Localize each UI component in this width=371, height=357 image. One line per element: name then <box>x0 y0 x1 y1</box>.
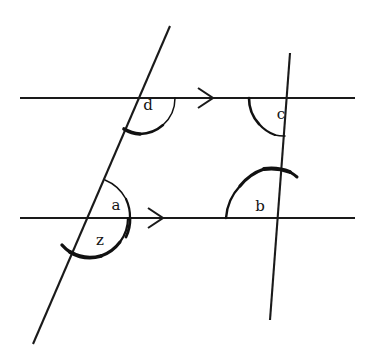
angle-label-d: d <box>143 96 153 114</box>
geometry-diagram: d c a z b <box>0 0 371 357</box>
diagram-background <box>0 0 371 357</box>
angle-label-c: c <box>277 105 285 123</box>
diagram-canvas: d c a z b <box>0 0 371 357</box>
angle-label-a: a <box>112 196 121 214</box>
angle-label-b: b <box>255 197 265 215</box>
angle-label-z: z <box>96 231 104 249</box>
